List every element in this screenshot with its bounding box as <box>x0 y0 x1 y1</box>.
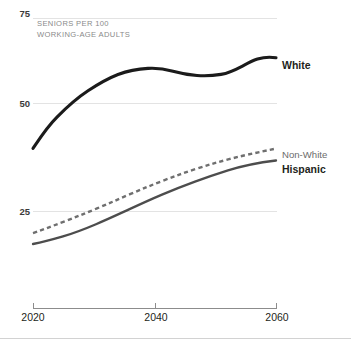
x-axis: 2020 2040 2060 <box>21 303 289 324</box>
y-tick-label-50: 50 <box>19 98 30 109</box>
y-tick-label-25: 25 <box>19 206 30 217</box>
subtitle-line-2: WORKING-AGE ADULTS <box>37 30 130 39</box>
legend-label-non-white: Non-White <box>282 149 327 160</box>
x-tick-label-2020: 2020 <box>21 311 45 323</box>
chart-subtitle: SENIORS PER 100 WORKING-AGE ADULTS <box>37 19 130 39</box>
y-tick-label-75: 75 <box>19 8 30 19</box>
legend-label-white: White <box>282 59 311 71</box>
series-line-non-white <box>33 149 276 234</box>
subtitle-line-1: SENIORS PER 100 <box>37 19 109 28</box>
inline-legend: White Non-White Hispanic <box>282 59 327 175</box>
y-axis-labels: 75 50 25 <box>19 8 30 217</box>
chart-container: 75 50 25 SENIORS PER 100 WORKING-AGE ADU… <box>0 0 351 352</box>
x-tick-label-2040: 2040 <box>144 311 168 323</box>
line-chart-plot: 75 50 25 SENIORS PER 100 WORKING-AGE ADU… <box>0 0 351 352</box>
series-group <box>33 57 276 244</box>
series-line-hispanic <box>33 161 276 245</box>
gridlines <box>33 19 277 212</box>
x-tick-label-2060: 2060 <box>265 311 289 323</box>
series-line-white <box>33 57 276 148</box>
legend-label-hispanic: Hispanic <box>282 163 326 175</box>
